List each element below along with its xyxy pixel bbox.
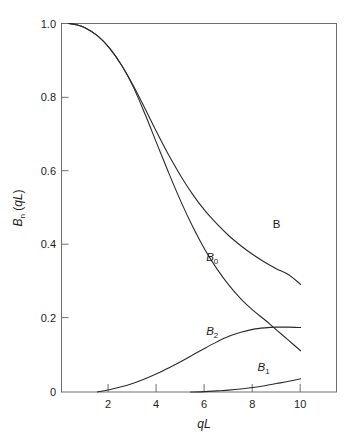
y-tick-label-0: 0 (50, 386, 56, 398)
y-axis-title-main: B (11, 219, 25, 227)
chart-figure: 1.0 0.8 0.6 0.4 0.2 0 2 4 6 8 10 qL Bn (… (0, 0, 357, 439)
series-label-B: B (273, 218, 281, 230)
svg-text:Bn (qL): Bn (qL) (11, 189, 27, 226)
x-tick-label-6: 6 (201, 398, 207, 410)
y-axis-title: Bn (qL) (11, 189, 27, 226)
y-axis-title-arg: qL (11, 193, 25, 206)
x-tick-label-8: 8 (249, 398, 255, 410)
x-tick-label-4: 4 (153, 398, 159, 410)
y-tick-label-0.2: 0.2 (41, 312, 56, 324)
y-tick-label-0.8: 0.8 (41, 91, 56, 103)
chart-background (0, 0, 357, 439)
x-axis-title: qL (197, 417, 210, 431)
series-label-B0-sub: 0 (214, 257, 219, 266)
x-tick-label-10: 10 (294, 398, 306, 410)
line-chart: 1.0 0.8 0.6 0.4 0.2 0 2 4 6 8 10 qL Bn (… (0, 0, 357, 439)
series-label-B1-sub: 1 (265, 367, 270, 376)
y-axis-title-close: ) (11, 189, 25, 193)
x-tick-label-2: 2 (105, 398, 111, 410)
y-tick-label-0.6: 0.6 (41, 165, 56, 177)
y-axis-title-tail: ( (11, 207, 25, 214)
y-tick-label-1.0: 1.0 (41, 18, 56, 30)
y-tick-label-0.4: 0.4 (41, 238, 56, 250)
series-label-B2-sub: 2 (214, 331, 219, 340)
